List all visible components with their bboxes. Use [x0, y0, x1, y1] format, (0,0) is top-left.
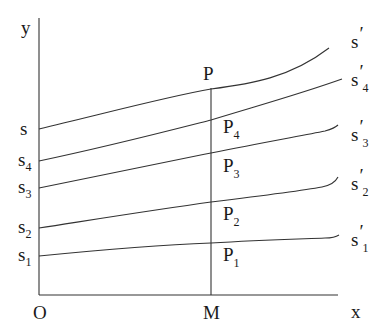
curve-s2 — [39, 177, 338, 228]
point-p4-label: P4 — [223, 116, 240, 142]
point-m-label: M — [203, 302, 220, 323]
point-p1-label: P1 — [223, 244, 240, 270]
right-label-s4-prime: s′4 — [351, 61, 369, 95]
right-label-s2-prime: s′2 — [351, 165, 369, 199]
y-axis-label: y — [21, 17, 31, 38]
point-p2-label: P2 — [223, 203, 240, 229]
right-label-s-prime: s′ — [351, 23, 364, 52]
point-p3-label: P3 — [223, 155, 240, 181]
curve-s1 — [39, 235, 339, 256]
curve-s3 — [39, 125, 338, 188]
layered-curves-diagram: y x O M s s4 s3 s2 s1 P P4 P3 P2 P1 s′ s… — [0, 0, 385, 335]
point-p-label: P — [203, 63, 214, 84]
curve-s4 — [39, 79, 342, 161]
curve-s — [39, 48, 329, 129]
left-label-s: s — [20, 118, 27, 139]
left-label-s1: s1 — [18, 244, 31, 269]
left-label-s2: s2 — [18, 216, 31, 241]
x-axis-label: x — [351, 301, 361, 322]
left-label-s3: s3 — [18, 176, 31, 201]
right-label-s3-prime: s′3 — [351, 116, 369, 150]
left-label-s4: s4 — [18, 149, 31, 174]
right-label-s1-prime: s′1 — [351, 221, 369, 255]
origin-label: O — [33, 302, 47, 323]
